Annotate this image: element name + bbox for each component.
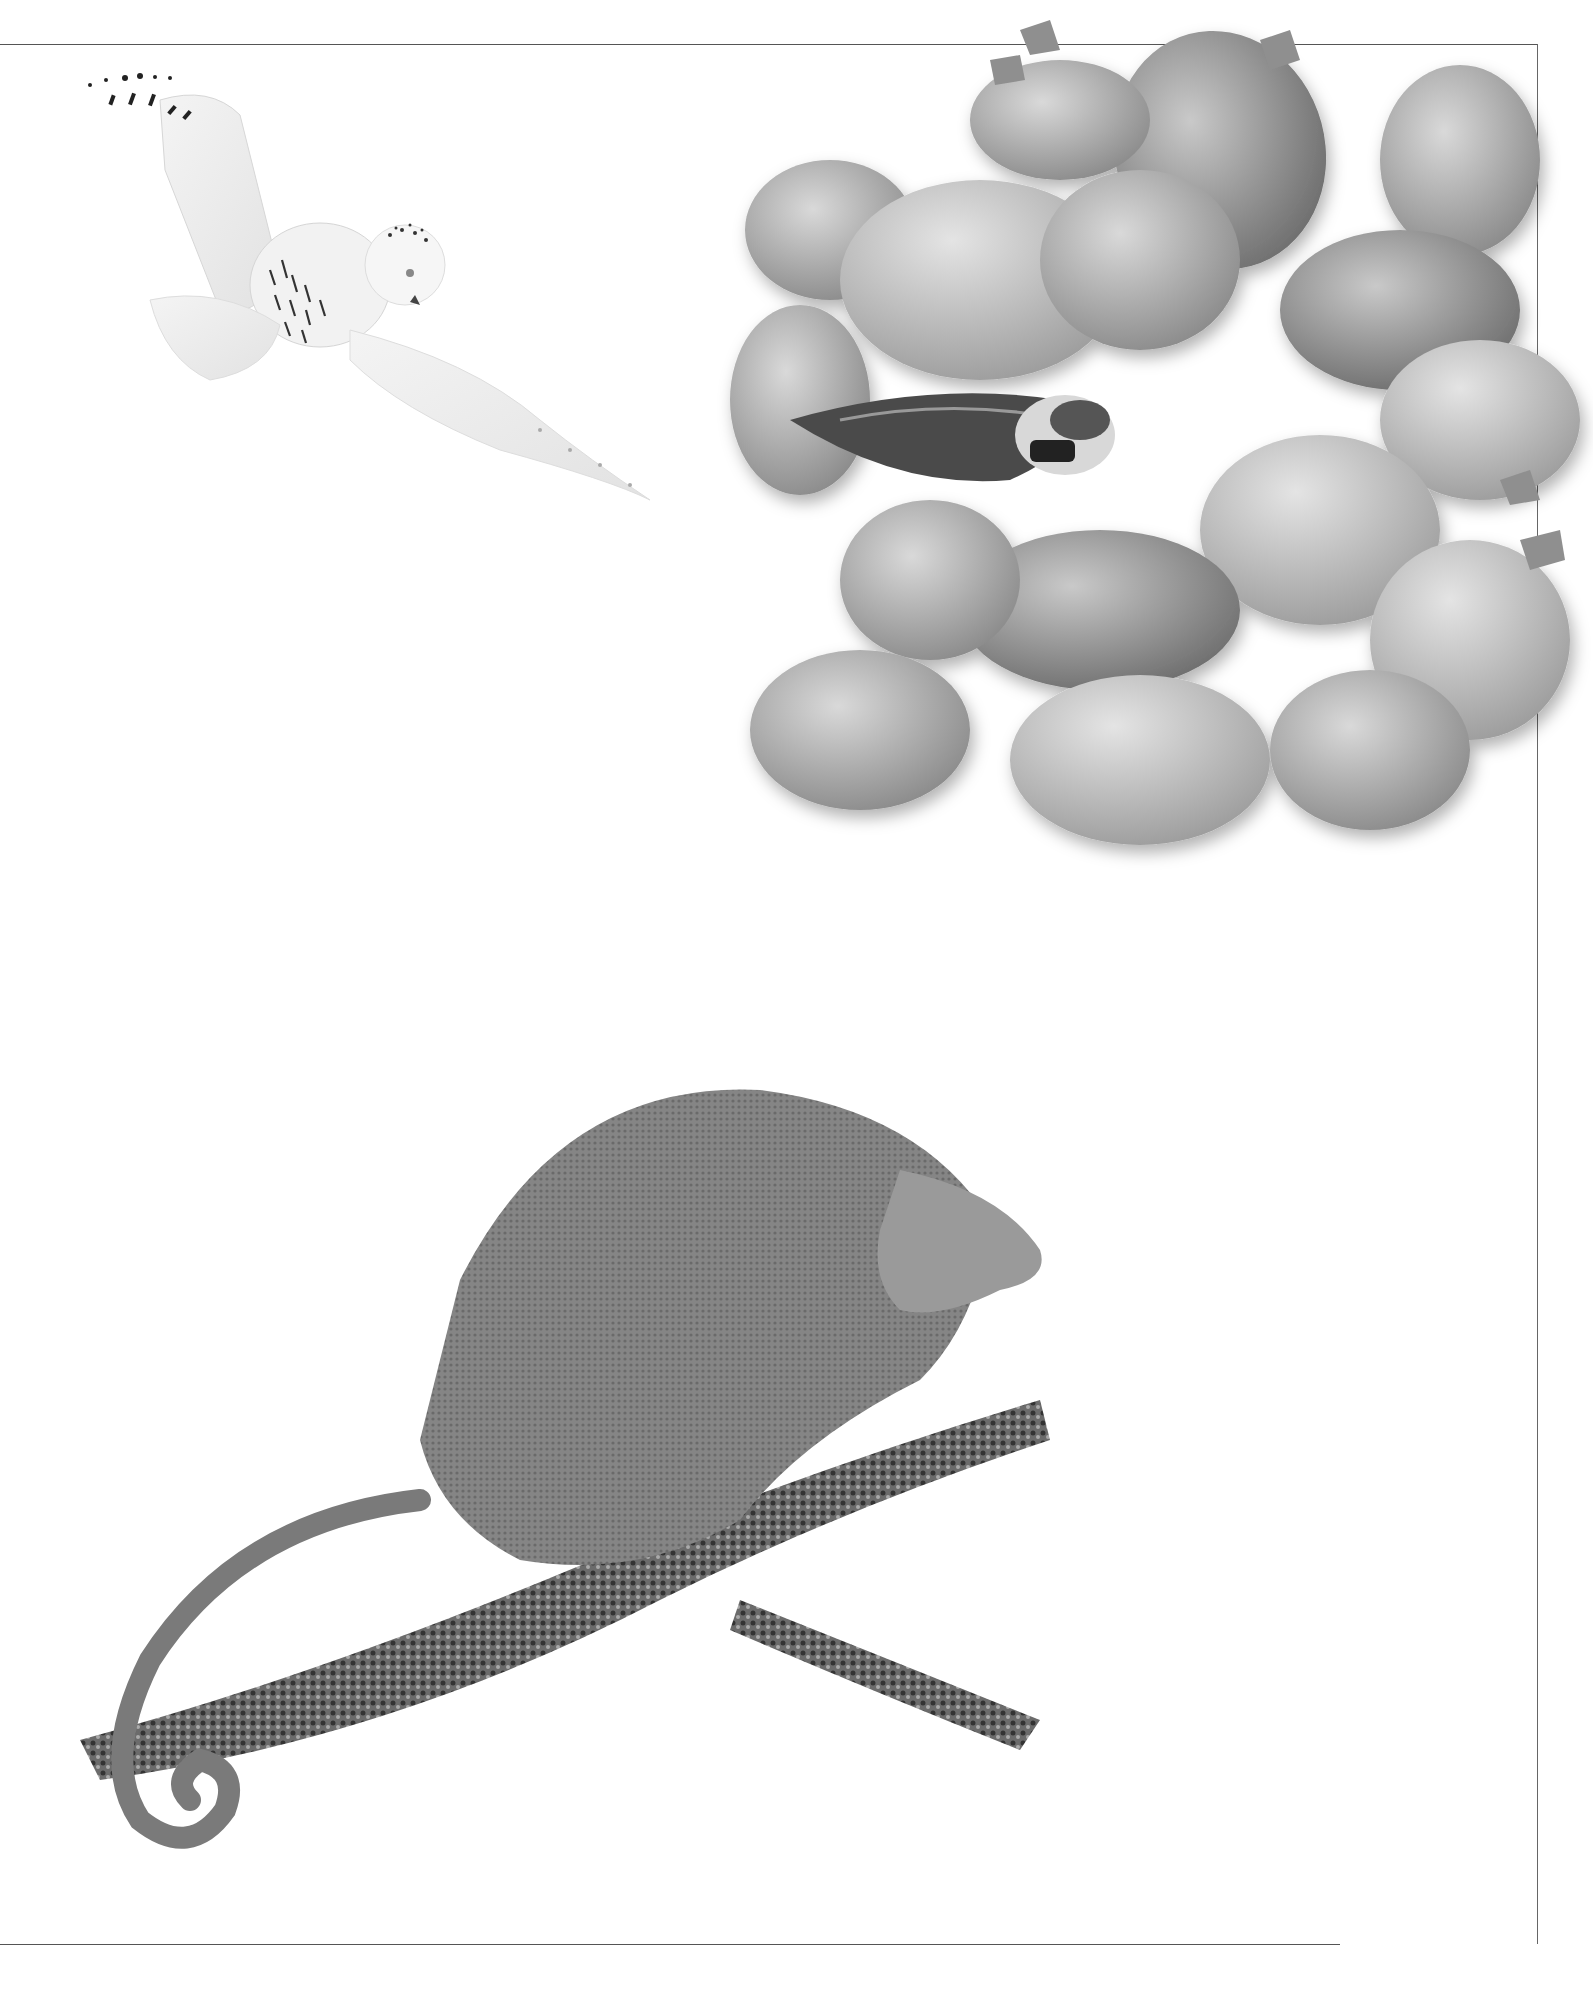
snowy-owl-illustration bbox=[70, 60, 670, 510]
parsons-chameleon-photo bbox=[40, 1020, 1300, 1900]
bottom-rule bbox=[0, 1944, 1340, 1945]
pebbles-and-ringed-plover-photo bbox=[680, 0, 1593, 880]
